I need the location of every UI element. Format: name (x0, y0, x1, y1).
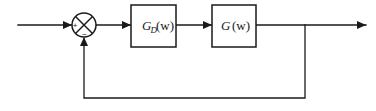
arrowhead-icon (357, 21, 366, 29)
block-controller: G D (w) (131, 5, 176, 47)
arrowhead-icon (203, 21, 212, 29)
block-plant-label-arg: (w) (232, 18, 250, 33)
summer-positive-sign: + (73, 21, 78, 30)
block-diagram-figure: + − G D (w) G (w) (0, 0, 376, 111)
block-plant-label-base: G (221, 18, 231, 33)
block-plant: G (w) (212, 5, 256, 47)
arrowhead-icon (122, 21, 131, 29)
arrowhead-icon (63, 21, 72, 29)
block-diagram-canvas: + − G D (w) G (w) (0, 0, 376, 111)
summer-negative-sign: − (82, 30, 87, 39)
feedback-path-wire (84, 25, 305, 98)
block-controller-label-arg: (w) (156, 18, 174, 33)
